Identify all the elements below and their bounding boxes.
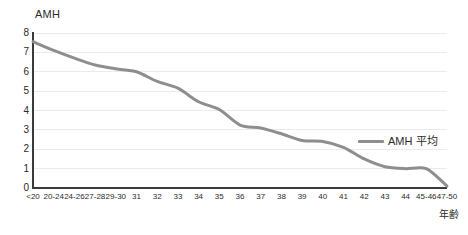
plot-svg [33, 33, 447, 188]
x-axis-tick-labels: <2020-2424-2627-2829-3031323334353637383… [33, 191, 447, 205]
x-tick-label: 20-24 [43, 191, 63, 202]
x-tick-label: 43 [380, 191, 389, 202]
x-tick-label: 33 [173, 191, 182, 202]
y-tick-label: 6 [23, 67, 29, 77]
y-tick-label: 7 [23, 47, 29, 57]
x-tick-label: 39 [298, 191, 307, 202]
x-tick-label: 40 [318, 191, 327, 202]
x-axis-title: 年齢 [439, 209, 459, 221]
x-tick-label: 36 [236, 191, 245, 202]
y-axis-tick-labels: 876543210 [0, 33, 29, 188]
y-tick-label: 5 [23, 86, 29, 96]
x-tick-label: 38 [277, 191, 286, 202]
plot-area [33, 33, 447, 188]
x-tick-label: 29-30 [106, 191, 126, 202]
x-tick-label: 35 [215, 191, 224, 202]
x-tick-label: 44 [401, 191, 410, 202]
amh-age-line-chart: AMH 876543210 <2020-2424-2627-2829-30313… [0, 0, 468, 235]
y-tick-label: 2 [23, 144, 29, 154]
y-tick-label: 8 [23, 28, 29, 38]
y-axis-title: AMH [35, 8, 60, 21]
series-line [33, 42, 447, 186]
x-tick-label: 31 [132, 191, 141, 202]
legend-line-swatch [358, 140, 384, 143]
x-tick-label: 45-46 [416, 191, 436, 202]
x-tick-label: 37 [256, 191, 265, 202]
gridlines [33, 33, 447, 188]
chart-legend: AMH 平均 [356, 134, 440, 149]
y-tick-label: 3 [23, 125, 29, 135]
y-tick-label: 1 [23, 164, 29, 174]
data-series [33, 42, 447, 186]
legend-label: AMH 平均 [388, 135, 438, 148]
x-tick-label: 42 [360, 191, 369, 202]
x-tick-label: 32 [153, 191, 162, 202]
x-tick-label: 34 [194, 191, 203, 202]
y-tick-label: 4 [23, 106, 29, 116]
x-tick-label: <20 [26, 191, 40, 202]
x-tick-label: 27-28 [85, 191, 105, 202]
x-tick-label: 41 [339, 191, 348, 202]
x-tick-label: 24-26 [64, 191, 84, 202]
x-tick-label: 47-50 [437, 191, 457, 202]
